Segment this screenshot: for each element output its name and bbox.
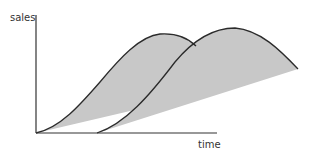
y-axis-label: sales bbox=[10, 12, 35, 23]
x-axis-label: time bbox=[198, 139, 221, 150]
product-lifecycle-chart bbox=[0, 0, 316, 157]
